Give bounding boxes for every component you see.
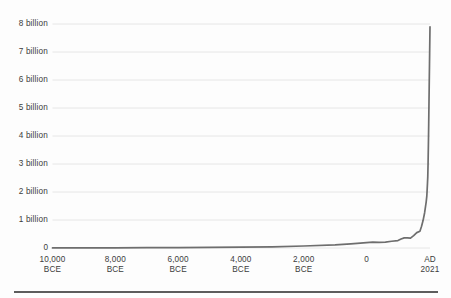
- x-tick-label: AD2021: [395, 255, 451, 275]
- x-tick-label: 0: [332, 255, 402, 265]
- x-tick-label-line1: 0: [364, 255, 369, 264]
- y-tick-label: 5 billion: [0, 104, 48, 112]
- population-chart-figure: 01 billion2 billion3 billion4 billion5 b…: [0, 0, 451, 298]
- x-tick-label-line1: 8,000: [105, 255, 126, 264]
- x-tick-label-line2: BCE: [18, 265, 88, 275]
- y-tick-label: 2 billion: [0, 188, 48, 196]
- y-tick-label: 0: [0, 244, 48, 252]
- y-tick-label: 8 billion: [0, 20, 48, 28]
- y-tick-label: 1 billion: [0, 216, 48, 224]
- x-tick-label: 4,000BCE: [206, 255, 276, 275]
- x-tick-label-line2: BCE: [269, 265, 339, 275]
- y-tick-label: 3 billion: [0, 160, 48, 168]
- gridline-group: [53, 24, 431, 220]
- footer-divider-rule: [14, 291, 438, 293]
- x-tick-label-line1: 6,000: [167, 255, 188, 264]
- y-tick-label: 7 billion: [0, 48, 48, 56]
- x-tick-label-line1: 2,000: [293, 255, 314, 264]
- x-tick-label-line2: BCE: [80, 265, 150, 275]
- x-tick-label: 8,000BCE: [80, 255, 150, 275]
- x-tick-label-line1: 4,000: [230, 255, 251, 264]
- x-tick-label-line1: 10,000: [39, 255, 65, 264]
- population-line-series: [53, 27, 431, 248]
- y-tick-label: 4 billion: [0, 132, 48, 140]
- x-tick-label: 2,000BCE: [269, 255, 339, 275]
- x-tick-label-line1: AD: [424, 255, 436, 264]
- x-tick-label: 6,000BCE: [143, 255, 213, 275]
- x-tick-label-line2: 2021: [395, 265, 451, 275]
- x-tick-label: 10,000BCE: [18, 255, 88, 275]
- y-tick-label: 6 billion: [0, 76, 48, 84]
- x-tick-label-line2: BCE: [143, 265, 213, 275]
- chart-canvas: [0, 0, 451, 298]
- x-tick-label-line2: BCE: [206, 265, 276, 275]
